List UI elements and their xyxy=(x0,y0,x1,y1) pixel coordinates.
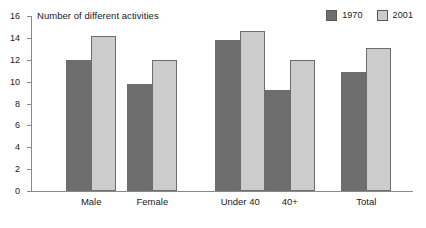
y-axis-tick-label: 4 xyxy=(15,143,20,152)
y-axis-tick: 10 xyxy=(27,82,31,83)
y-axis-tick: 16 xyxy=(27,16,31,17)
y-axis-tick: 12 xyxy=(27,60,31,61)
y-axis-tick-label: 8 xyxy=(15,99,20,108)
y-axis-tick: 14 xyxy=(27,38,31,39)
y-axis-tick-label: 2 xyxy=(15,165,20,174)
y-axis-tick: 0 xyxy=(27,191,31,192)
y-axis-tick: 6 xyxy=(27,125,31,126)
bar-1970-female xyxy=(127,84,152,191)
x-axis-line xyxy=(31,191,413,192)
y-axis-tick: 4 xyxy=(27,147,31,148)
bar-2001-40- xyxy=(290,60,315,191)
x-axis-category-labels: MaleFemaleUnder 4040+Total xyxy=(31,196,413,212)
y-axis-tick: 2 xyxy=(27,169,31,170)
x-axis-label-40-: 40+ xyxy=(282,196,298,207)
y-axis-tick-label: 16 xyxy=(10,12,20,21)
x-axis-label-total: Total xyxy=(356,196,376,207)
plot-area: 0246810121416 xyxy=(31,16,413,192)
y-axis-tick-label: 10 xyxy=(10,77,20,86)
bar-2001-male xyxy=(91,36,116,191)
bar-1970-male xyxy=(66,60,91,191)
y-axis-tick-label: 14 xyxy=(10,33,20,42)
x-axis-label-male: Male xyxy=(81,196,102,207)
bar-2001-female xyxy=(152,60,177,191)
bar-1970-under-40 xyxy=(215,40,240,191)
bar-2001-total xyxy=(366,48,391,191)
y-axis-tick: 8 xyxy=(27,104,31,105)
bar-2001-under-40 xyxy=(240,31,265,191)
x-axis-label-female: Female xyxy=(136,196,168,207)
x-axis-label-under-40: Under 40 xyxy=(221,196,260,207)
bar-chart: 1970 2001 Number of different activities… xyxy=(0,0,426,228)
y-axis-tick-label: 0 xyxy=(15,187,20,196)
bars-layer xyxy=(32,16,413,191)
y-axis-tick-label: 6 xyxy=(15,121,20,130)
bar-1970-40- xyxy=(265,90,290,191)
y-axis-tick-label: 12 xyxy=(10,55,20,64)
bar-1970-total xyxy=(341,72,366,191)
